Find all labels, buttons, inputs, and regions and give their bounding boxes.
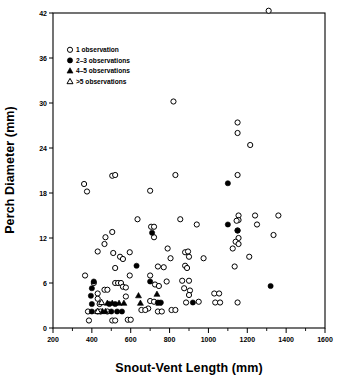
data-point-open-circle — [217, 300, 222, 305]
data-point-open-circle — [168, 256, 173, 261]
data-point-filled-triangle — [154, 291, 160, 296]
series-open-circle — [81, 8, 280, 323]
data-point-open-circle — [95, 291, 100, 296]
data-point-open-circle — [194, 222, 199, 227]
data-point-filled-circle — [134, 263, 139, 268]
y-tick-label: 30 — [39, 100, 47, 107]
data-point-open-circle — [180, 278, 185, 283]
legend-marker-open-circle — [67, 47, 72, 52]
data-point-filled-circle — [115, 309, 120, 314]
x-tick-label: 800 — [164, 336, 176, 343]
x-tick-label: 600 — [125, 336, 137, 343]
data-points-layer — [81, 8, 280, 323]
data-point-open-circle — [248, 142, 253, 147]
legend-label: 2–3 observations — [76, 57, 130, 64]
data-point-open-circle — [254, 222, 259, 227]
data-point-open-circle — [201, 256, 206, 261]
y-tick-label: 18 — [39, 190, 47, 197]
data-point-open-circle — [196, 299, 201, 304]
y-tick-label: 0 — [43, 325, 47, 332]
legend-marker-filled-triangle — [67, 68, 73, 73]
data-point-filled-circle — [148, 279, 153, 284]
data-point-filled-circle — [190, 300, 195, 305]
y-tick-label: 36 — [39, 55, 47, 62]
data-point-open-circle — [159, 309, 164, 314]
data-point-open-circle — [102, 241, 107, 246]
data-point-open-circle — [113, 265, 118, 270]
data-point-filled-circle — [268, 283, 273, 288]
legend-marker-filled-circle — [67, 58, 72, 63]
data-point-open-circle — [155, 264, 160, 269]
data-point-open-circle — [235, 300, 240, 305]
data-point-open-circle — [95, 249, 100, 254]
data-point-open-circle — [164, 279, 169, 284]
data-point-open-circle — [252, 213, 257, 218]
x-axis-title: Snout-Vent Length (mm) — [115, 361, 262, 375]
data-point-open-circle — [135, 217, 140, 222]
y-axis-tick-labels: 06121824303642 — [39, 10, 47, 332]
y-tick-label: 42 — [39, 10, 47, 17]
data-point-open-circle — [230, 246, 235, 251]
data-point-open-circle — [235, 130, 240, 135]
data-point-open-circle — [128, 317, 133, 322]
data-point-open-circle — [173, 307, 178, 312]
data-point-open-circle — [105, 287, 110, 292]
data-point-filled-circle — [119, 309, 124, 314]
data-point-open-circle — [143, 307, 148, 312]
series-filled-circle — [88, 181, 273, 314]
data-point-open-circle — [234, 218, 239, 223]
legend-label: 1 observation — [76, 46, 119, 53]
x-tick-label: 400 — [86, 336, 98, 343]
data-point-open-circle — [113, 318, 118, 323]
legend-label: 4–5 observations — [76, 67, 130, 74]
chart-svg: 06121824303642 2004006008001000120014001… — [0, 0, 344, 382]
data-point-open-circle — [276, 213, 281, 218]
y-tick-label: 24 — [39, 145, 47, 152]
y-axis-ticks — [49, 13, 53, 328]
data-point-filled-circle — [88, 293, 93, 298]
data-point-open-circle — [84, 189, 89, 194]
x-tick-label: 1400 — [278, 336, 294, 343]
chart-legend: 1 observation2–3 observations4–5 observa… — [67, 46, 130, 85]
data-point-open-circle — [217, 291, 222, 296]
data-point-open-circle — [111, 250, 116, 255]
data-point-filled-circle — [89, 301, 94, 306]
data-point-open-circle — [161, 265, 166, 270]
data-point-open-circle — [123, 285, 128, 290]
data-point-open-circle — [247, 254, 252, 259]
data-point-filled-circle — [225, 181, 230, 186]
data-point-open-circle — [235, 172, 240, 177]
data-point-open-circle — [86, 318, 91, 323]
data-point-open-circle — [178, 217, 183, 222]
y-tick-label: 6 — [43, 280, 47, 287]
data-point-open-circle — [151, 224, 156, 229]
legend-label: >5 observations — [76, 78, 127, 85]
data-point-open-circle — [123, 294, 128, 299]
x-tick-label: 1600 — [317, 336, 333, 343]
data-point-filled-circle — [235, 228, 240, 233]
data-point-open-circle — [148, 188, 153, 193]
data-point-filled-circle — [91, 279, 96, 284]
data-point-filled-triangle — [121, 300, 127, 305]
data-point-open-circle — [236, 241, 241, 246]
data-point-open-circle — [186, 292, 191, 297]
data-point-open-circle — [235, 120, 240, 125]
y-axis-title: Perch Diameter (mm) — [3, 106, 17, 234]
data-point-open-circle — [127, 250, 132, 255]
data-point-open-circle — [173, 172, 178, 177]
data-point-filled-circle — [225, 222, 230, 227]
data-point-open-circle — [185, 249, 190, 254]
data-point-open-circle — [82, 273, 87, 278]
data-point-open-circle — [232, 264, 237, 269]
data-point-open-circle — [148, 273, 153, 278]
data-point-open-circle — [271, 232, 276, 237]
x-axis-tick-labels: 2004006008001000120014001600 — [47, 336, 333, 343]
data-point-open-circle — [186, 254, 191, 259]
data-point-open-circle — [156, 283, 161, 288]
data-point-open-circle — [120, 256, 125, 261]
data-point-filled-circle — [89, 309, 94, 314]
x-tick-label: 200 — [47, 336, 59, 343]
data-point-open-circle — [266, 8, 271, 13]
legend-marker-open-triangle — [67, 78, 73, 83]
data-point-open-circle — [110, 229, 115, 234]
